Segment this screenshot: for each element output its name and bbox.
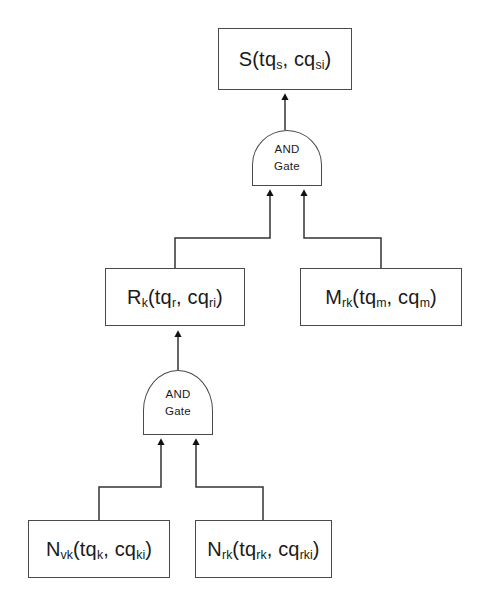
node-label-m: Mrk(tqm, cqm) — [325, 286, 437, 308]
connector-m-to-topgate — [304, 193, 381, 268]
node-event-m: Mrk(tqm, cqm) — [300, 268, 462, 326]
and-gate-lower-line1: AND — [165, 386, 190, 403]
node-label-nrk: Nrk(tqrk, cqrki) — [207, 538, 319, 560]
connector-nrk-to-lowergate — [196, 442, 263, 520]
connector-nvk-to-lowergate — [99, 442, 161, 520]
node-event-r: Rk(tqr, cqri) — [105, 268, 245, 326]
and-gate-lower-line2: Gate — [165, 403, 191, 420]
and-gate-top-line1: AND — [274, 141, 299, 158]
and-gate-top-line2: Gate — [274, 158, 300, 175]
node-label-r: Rk(tqr, cqri) — [127, 286, 223, 308]
node-top-event-s: S(tqs, cqsi) — [218, 28, 352, 90]
connector-r-to-topgate — [175, 193, 270, 268]
node-event-nvk: Nvk(tqk, cqki) — [28, 520, 170, 578]
node-label-nvk: Nvk(tqk, cqki) — [46, 538, 152, 560]
node-label-s: S(tqs, cqsi) — [239, 48, 332, 70]
node-event-nrk: Nrk(tqrk, cqrki) — [195, 520, 332, 578]
